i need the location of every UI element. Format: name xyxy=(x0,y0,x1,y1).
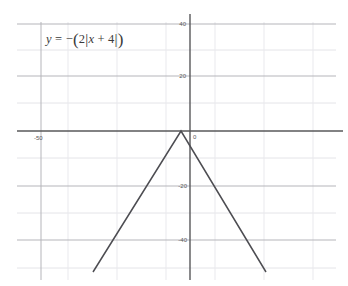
grid-minor-horizontal xyxy=(17,50,336,268)
equation-close-paren: ) xyxy=(118,30,124,49)
y-tick-label-neg40: -40 xyxy=(178,237,187,243)
origin-tick-label: 0 xyxy=(193,134,197,140)
chart-container: 40 20 -20 -40 0 -50 y = −(2|x + 4|) xyxy=(0,0,348,286)
equation-annotation: y = −(2|x + 4|) xyxy=(46,30,124,50)
y-tick-label-neg20: -20 xyxy=(178,183,187,189)
equation-equals: = xyxy=(55,32,62,46)
x-tick-label-neg50: -50 xyxy=(34,135,43,141)
y-tick-label-20: 20 xyxy=(179,73,186,79)
equation-lhs: y xyxy=(46,32,52,46)
y-tick-label-40: 40 xyxy=(179,21,186,27)
equation-minus: − xyxy=(66,32,73,46)
curve-series-0 xyxy=(93,131,266,272)
equation-inner-var: x xyxy=(88,32,94,46)
grid-major-horizontal xyxy=(17,24,336,240)
equation-plus: + xyxy=(98,32,105,46)
